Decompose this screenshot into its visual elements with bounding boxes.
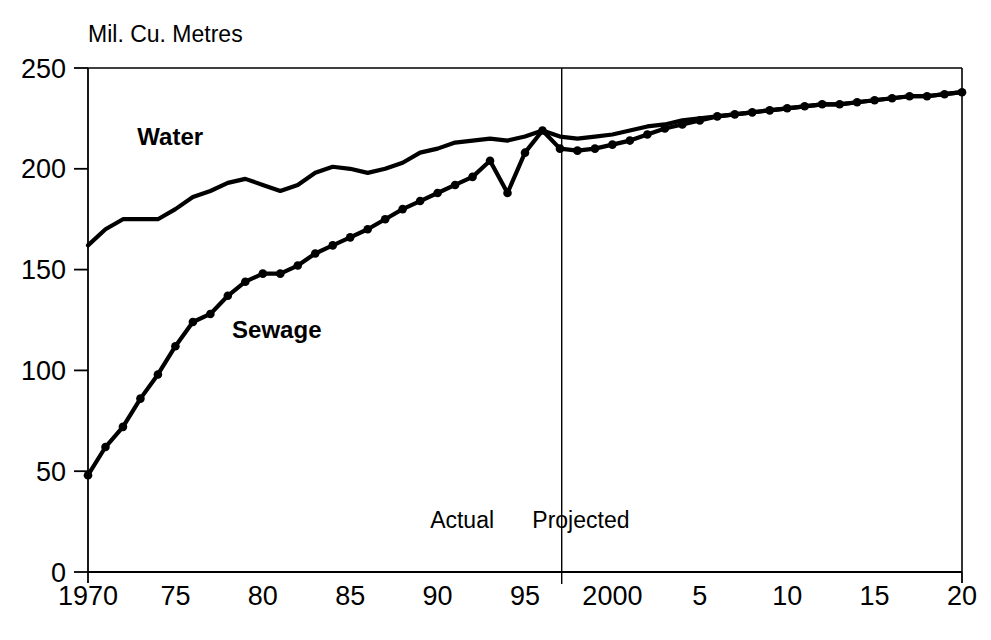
line-chart: 050100150200250 197075808590952000510152… [0,0,991,640]
series-marker [381,215,390,224]
series-marker [958,88,967,97]
series-marker [241,277,250,286]
series-marker [713,112,722,121]
series-marker [171,342,180,351]
series-marker [591,144,600,153]
y-tick-label: 100 [21,356,66,386]
series-marker [224,292,233,301]
y-tick-label: 200 [21,154,66,184]
x-tick-label: 80 [248,581,278,611]
series-marker [905,92,914,101]
series-marker [835,100,844,109]
y-axis-unit-label: Mil. Cu. Metres [88,21,243,47]
series-marker [521,148,530,157]
series-marker [259,269,268,278]
x-tick-label: 95 [510,581,540,611]
series-marker [363,225,372,234]
x-tick-label: 10 [772,581,802,611]
series-marker [818,100,827,109]
series-marker [276,269,285,278]
series-marker [486,156,495,165]
series-marker [765,106,774,115]
series-marker [643,130,652,139]
series-marker [189,318,198,327]
series-marker [800,102,809,111]
series-marker [853,98,862,107]
series-marker [870,96,879,105]
y-tick-label: 150 [21,255,66,285]
series-marker [940,90,949,99]
series-marker [433,189,442,198]
y-tick-label: 50 [36,457,66,487]
series-marker [661,124,670,133]
series-label-sewage: Sewage [232,316,321,343]
series-marker [783,104,792,113]
series-marker [136,394,145,403]
series-marker [293,261,302,270]
series-marker [416,197,425,206]
series-marker [748,108,757,117]
series-marker [468,173,477,182]
x-tick-label: 20 [947,581,977,611]
series-marker [573,146,582,155]
series-marker [328,241,337,250]
chart-container: 050100150200250 197075808590952000510152… [0,0,991,640]
series-marker [730,110,739,119]
series-marker [451,181,460,190]
series-marker [119,423,128,432]
x-tick-label: 1970 [58,581,118,611]
x-tick-label: 75 [160,581,190,611]
x-tick-label: 90 [423,581,453,611]
series-marker [608,140,617,149]
chart-background [0,0,991,640]
x-tick-label: 15 [860,581,890,611]
series-marker [888,94,897,103]
x-tick-label: 85 [335,581,365,611]
series-marker [206,310,215,319]
series-marker [556,144,565,153]
series-marker [311,249,320,258]
series-marker [398,205,407,214]
series-marker [538,126,547,135]
series-marker [626,136,635,145]
x-tick-label: 2000 [582,581,642,611]
x-tick-label: 5 [692,581,707,611]
series-marker [696,116,705,125]
region-label-actual: Actual [430,507,494,533]
y-tick-label: 250 [21,54,66,84]
series-marker [346,233,355,242]
series-marker [101,443,110,452]
region-label-projected: Projected [532,507,629,533]
series-marker [503,189,512,198]
series-marker [678,120,687,129]
series-marker [923,92,932,101]
series-marker [84,471,93,480]
series-marker [154,370,163,379]
series-label-water: Water [137,123,203,150]
